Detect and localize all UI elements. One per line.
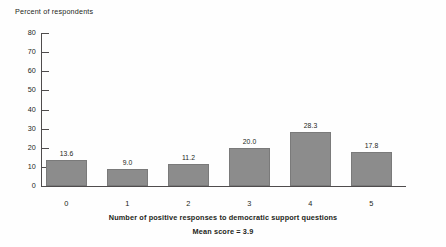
x-tick-label: 1 [107, 199, 148, 208]
y-tick-label: 10 [28, 162, 36, 171]
table-row [107, 169, 148, 186]
x-tick-label: 4 [290, 199, 331, 208]
y-axis-tick: 50 [41, 90, 49, 91]
bar-value-label: 11.2 [168, 154, 209, 161]
y-axis-tick: 70 [41, 52, 49, 53]
x-axis-tick-labels: 0 1 2 3 4 5 [41, 187, 406, 209]
bar-value-label: 9.0 [107, 159, 148, 166]
y-axis-tick: 20 [41, 148, 49, 149]
x-tick-label: 0 [46, 199, 87, 208]
bar-value-label: 20.0 [229, 138, 270, 145]
table-row [351, 152, 392, 186]
bar-value-label: 17.8 [351, 142, 392, 149]
x-tick-label: 5 [351, 199, 392, 208]
table-row [229, 148, 270, 187]
y-axis-title: Percent of respondents [15, 7, 93, 16]
y-tick-label: 50 [28, 85, 36, 94]
x-tick-label: 2 [168, 199, 209, 208]
y-axis-tick: 30 [41, 129, 49, 130]
x-axis-title: Number of positive responses to democrat… [0, 213, 446, 222]
table-row [46, 160, 87, 186]
y-axis-tick: 80 [41, 33, 49, 34]
plot-area: 80 70 60 50 40 30 20 10 [41, 33, 406, 187]
y-tick-label: 0 [32, 181, 36, 190]
y-tick-label: 80 [28, 28, 36, 37]
y-tick-label: 30 [28, 124, 36, 133]
y-tick-label: 70 [28, 47, 36, 56]
x-tick-label: 3 [229, 199, 270, 208]
mean-score-caption: Mean score = 3.9 [0, 227, 446, 236]
y-tick-label: 40 [28, 105, 36, 114]
bar-value-label: 13.6 [46, 150, 87, 157]
y-axis-tick: 40 [41, 110, 49, 111]
y-axis-tick: 60 [41, 71, 49, 72]
bar-value-label: 28.3 [290, 122, 331, 129]
bar-chart-figure: Percent of respondents 80 70 60 50 40 30 [0, 0, 446, 247]
y-tick-label: 60 [28, 66, 36, 75]
table-row [290, 132, 331, 186]
table-row [168, 164, 209, 186]
y-tick-label: 20 [28, 143, 36, 152]
